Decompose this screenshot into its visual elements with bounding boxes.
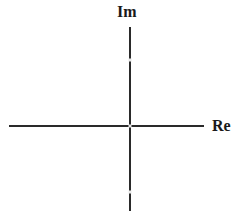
origin-mark [129,125,132,128]
complex-plane-diagram: Im Re [0,0,246,211]
imaginary-axis-label: Im [117,4,137,20]
upper-mark [129,59,132,62]
lower-mark [129,191,132,194]
real-axis-label: Re [212,118,231,134]
axes-canvas [0,0,246,211]
